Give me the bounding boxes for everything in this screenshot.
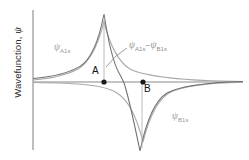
label-psi-b1s-subscript: B1s xyxy=(178,117,189,123)
label-psi-a1s: ψA1s xyxy=(54,43,71,54)
wavefunction-figure: Wavefunction, ψ ψA1s ψB1s ψA1s−ψB1s A B xyxy=(0,0,249,160)
label-combination-subscript-1: A1s xyxy=(135,46,146,52)
label-psi-a1s-subscript: A1s xyxy=(60,48,71,54)
label-combination: ψA1s−ψB1s xyxy=(129,41,167,52)
plot-canvas xyxy=(0,0,249,160)
label-combination-subscript-2: B1s xyxy=(156,46,167,52)
label-nucleus-b: B xyxy=(144,84,151,94)
label-psi-b1s: ψB1s xyxy=(172,112,189,123)
y-axis-title-text: Wavefunction, xyxy=(12,37,23,98)
y-axis-title: Wavefunction, ψ xyxy=(12,0,23,129)
curve-psi-b1s xyxy=(33,82,243,142)
y-axis-psi-symbol: ψ xyxy=(12,27,23,34)
label-nucleus-a: A xyxy=(92,66,99,76)
nucleus-dot-a xyxy=(101,79,106,84)
